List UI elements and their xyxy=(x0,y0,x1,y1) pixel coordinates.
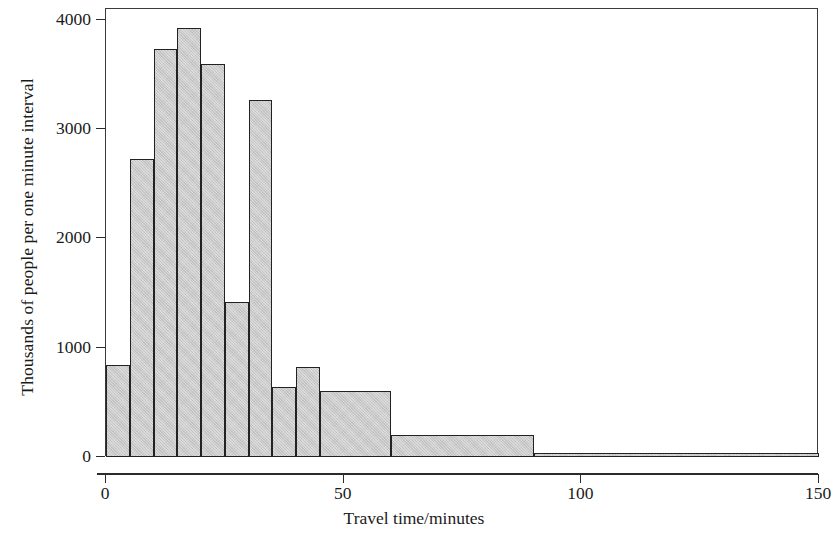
y-tick-label: 2000 xyxy=(21,228,91,246)
x-axis-line xyxy=(97,473,818,475)
x-tick-label: 0 xyxy=(65,484,145,502)
histogram-bar xyxy=(154,49,178,457)
x-tick-mark xyxy=(343,474,344,483)
x-tick-mark xyxy=(580,474,581,483)
histogram-bar xyxy=(130,159,154,457)
histogram-bar xyxy=(177,28,201,457)
histogram-bar xyxy=(225,302,249,457)
plot-frame xyxy=(105,8,818,456)
x-axis-title: Travel time/minutes xyxy=(0,508,828,528)
y-tick-label: 4000 xyxy=(21,10,91,28)
histogram-bar xyxy=(106,365,130,457)
histogram-bar xyxy=(391,435,534,457)
y-tick-label: 3000 xyxy=(21,119,91,137)
y-tick-mark xyxy=(96,456,105,457)
x-tick-mark xyxy=(818,474,819,483)
x-tick-label: 50 xyxy=(303,484,383,502)
histogram-bar xyxy=(272,387,296,457)
histogram-bar xyxy=(534,453,819,457)
x-tick-label: 100 xyxy=(540,484,620,502)
histogram-bar xyxy=(296,367,320,457)
x-tick-mark xyxy=(105,474,106,483)
y-tick-mark xyxy=(96,128,105,129)
y-tick-label: 1000 xyxy=(21,338,91,356)
y-tick-mark xyxy=(96,19,105,20)
histogram-bar xyxy=(320,391,391,457)
y-tick-mark xyxy=(96,237,105,238)
y-tick-label: 0 xyxy=(21,447,91,465)
histogram-bar xyxy=(201,64,225,457)
histogram-bar xyxy=(249,100,273,457)
y-tick-mark xyxy=(96,347,105,348)
x-tick-label: 150 xyxy=(778,484,836,502)
